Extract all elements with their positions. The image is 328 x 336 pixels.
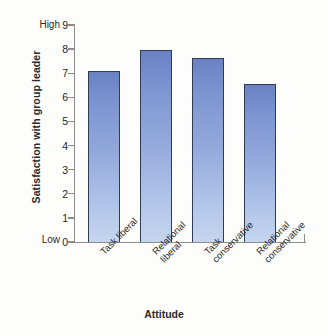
x-axis-title: Attitude <box>0 308 328 320</box>
y-axis-tick-label: 5 <box>54 115 68 127</box>
plot-area <box>74 25 306 242</box>
y-axis-tick-label: 0 <box>54 236 68 248</box>
y-axis-tick-labels: 0123456789 <box>52 0 68 336</box>
y-axis-tick-label: 2 <box>54 188 68 200</box>
y-axis-tick-label: 1 <box>54 212 68 224</box>
y-axis-tick-label: 8 <box>54 43 68 55</box>
y-axis-tick-label: 6 <box>54 91 68 103</box>
bar <box>244 84 276 242</box>
bar <box>140 50 172 242</box>
y-axis-tick-label: 9 <box>54 19 68 31</box>
y-axis-tick-label: 3 <box>54 164 68 176</box>
bar-chart: Satisfaction with group leader High Low … <box>0 0 328 336</box>
y-axis-tick-label: 4 <box>54 140 68 152</box>
y-axis-tick-label: 7 <box>54 67 68 79</box>
y-axis-title: Satisfaction with group leader <box>30 27 42 227</box>
bar <box>88 71 120 242</box>
bar <box>192 58 224 242</box>
